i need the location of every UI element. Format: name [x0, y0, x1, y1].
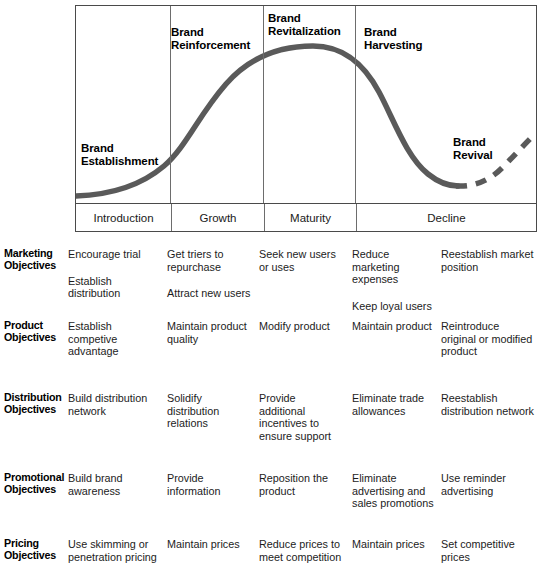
row-label-product-objectives: Product Objectives — [4, 320, 66, 343]
row-label-line1: Pricing — [4, 537, 39, 549]
chart-label-brand-harvesting: Brand Harvesting — [364, 26, 422, 51]
chart-divider-growth-maturity — [263, 6, 264, 203]
chart-label-brand-establishment-line1: Brand — [81, 142, 114, 154]
cell-distribution-decline-a: Eliminate trade allowances — [352, 392, 437, 417]
row-label-line2: Objectives — [4, 549, 56, 561]
cell-marketing-maturity: Seek new users or uses — [259, 248, 344, 273]
cell-product-decline-a: Maintain product — [352, 320, 437, 333]
chart-label-brand-revival-line1: Brand — [453, 136, 486, 148]
cell-distribution-growth: Solidify distribution relations — [167, 392, 255, 430]
chart-label-brand-harvesting-line2: Harvesting — [364, 39, 422, 51]
stage-cell-introduction: Introduction — [76, 204, 171, 231]
chart-label-brand-establishment-line2: Establishment — [81, 155, 158, 167]
row-label-line2: Objectives — [4, 259, 56, 271]
cell-pricing-introduction: Use skimming or penetration pricing — [68, 538, 160, 563]
chart-label-brand-reinforcement-line1: Brand — [171, 26, 204, 38]
row-label-marketing-objectives: Marketing Objectives — [4, 248, 66, 271]
cell-pricing-decline-a: Maintain prices — [352, 538, 437, 551]
chart-label-brand-revitalization: Brand Revitalization — [268, 12, 341, 37]
cell-distribution-maturity: Provide additional incentives to ensure … — [259, 392, 344, 442]
cell-promotional-decline-b: Use reminder advertising — [441, 472, 535, 497]
cell-marketing-decline-a: Reduce marketing expenses Keep loyal use… — [352, 248, 437, 312]
row-label-line2: Objectives — [4, 331, 56, 343]
cell-pricing-decline-b: Set competitive prices — [441, 538, 535, 563]
row-label-line1: Distribution — [4, 391, 62, 403]
chart-label-brand-revival-line2: Revival — [453, 149, 493, 161]
row-label-line2: Objectives — [4, 483, 56, 495]
stage-cell-decline: Decline — [356, 204, 536, 231]
cell-distribution-introduction: Build distribution network — [68, 392, 160, 417]
chart-label-brand-revitalization-line2: Revitalization — [268, 25, 341, 37]
row-label-line2: Objectives — [4, 403, 56, 415]
cell-product-decline-b: Reintroduce original or modified product — [441, 320, 535, 358]
chart-label-brand-harvesting-line1: Brand — [364, 26, 397, 38]
chart-label-brand-reinforcement: Brand Reinforcement — [171, 26, 250, 51]
cell-marketing-decline-b: Reestablish market position — [441, 248, 535, 273]
chart-divider-maturity-decline — [355, 6, 356, 203]
row-label-pricing-objectives: Pricing Objectives — [4, 538, 66, 561]
cell-marketing-growth: Get triers to repurchase Attract new use… — [167, 248, 255, 300]
chart-label-brand-reinforcement-line2: Reinforcement — [171, 39, 250, 51]
cell-pricing-growth: Maintain prices — [167, 538, 255, 551]
row-label-line1: Product — [4, 319, 43, 331]
stage-cell-maturity: Maturity — [264, 204, 356, 231]
cell-distribution-decline-b: Reestablish distribution network — [441, 392, 535, 417]
cell-marketing-introduction: Encourage trial Establish distribution — [68, 248, 160, 300]
cell-product-maturity: Modify product — [259, 320, 344, 333]
stage-header-row: Introduction Growth Maturity Decline — [75, 203, 537, 232]
row-label-line1: Promotional — [4, 471, 64, 483]
cell-promotional-decline-a: Eliminate advertising and sales promotio… — [352, 472, 437, 510]
chart-label-brand-revival: Brand Revival — [453, 136, 493, 161]
chart-label-brand-establishment: Brand Establishment — [81, 142, 158, 167]
cell-promotional-introduction: Build brand awareness — [68, 472, 160, 497]
row-label-distribution-objectives: Distribution Objectives — [4, 392, 66, 415]
cell-pricing-maturity: Reduce prices to meet competition — [259, 538, 344, 563]
row-label-promotional-objectives: Promotional Objectives — [4, 472, 66, 495]
chart-label-brand-revitalization-line1: Brand — [268, 12, 301, 24]
cell-product-introduction: Establish competive advantage — [68, 320, 160, 358]
cell-product-growth: Maintain product quality — [167, 320, 255, 345]
cell-promotional-maturity: Reposition the product — [259, 472, 344, 497]
brand-life-cycle-chart: Brand Establishment Brand Reinforcement … — [75, 5, 537, 203]
stage-cell-growth: Growth — [171, 204, 264, 231]
curve-solid-segment — [76, 46, 458, 196]
row-label-line1: Marketing — [4, 247, 53, 259]
cell-promotional-growth: Provide information — [167, 472, 255, 497]
